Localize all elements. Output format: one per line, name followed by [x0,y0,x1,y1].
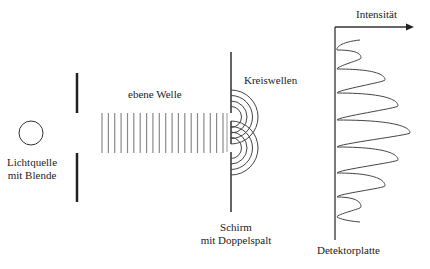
plane-wave-label: ebene Welle [128,88,182,101]
circular-waves [231,90,258,175]
plane-wave-lines [102,113,223,153]
circular-waves-label: Kreiswellen [244,74,297,87]
detector-plate-label: Detektorplatte [317,244,380,257]
light-source-icon [19,121,43,145]
intensity-axis-label: Intensität [356,8,397,21]
detector-plate-axis [335,27,408,240]
screen-label: Schirm mit Doppelspalt [196,221,276,247]
light-source-label: Lichtquelle mit Blende [6,156,58,182]
double-slit-diagram: Lichtquelle mit Blende ebene Welle Kreis… [0,0,430,269]
intensity-curve [337,40,410,222]
arrow-right-icon [406,24,414,31]
